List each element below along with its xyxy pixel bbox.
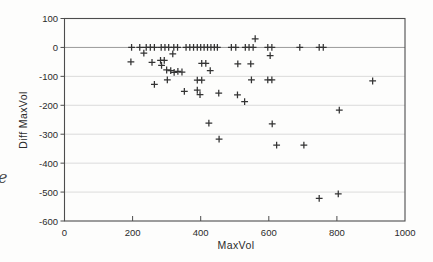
data-point-marker xyxy=(250,44,257,51)
data-point-marker xyxy=(247,61,254,68)
data-point-marker xyxy=(169,50,176,57)
data-point-marker xyxy=(269,120,276,127)
scatter-figure: 020040060080010001000-100-200-300-400-50… xyxy=(0,0,433,262)
data-point-marker xyxy=(151,81,158,88)
x-tick-label: 600 xyxy=(261,227,277,238)
data-point-marker xyxy=(335,190,342,197)
data-point-marker xyxy=(369,78,376,85)
y-tick-label: -500 xyxy=(39,187,58,198)
x-tick-label: 0 xyxy=(62,227,67,238)
data-point-marker xyxy=(268,44,275,51)
x-tick-label: 200 xyxy=(125,227,141,238)
data-point-marker xyxy=(232,44,239,51)
data-point-marker xyxy=(216,136,223,143)
x-tick-label: 800 xyxy=(329,227,345,238)
data-point-marker xyxy=(215,90,222,97)
stray-text-fragment: e xyxy=(0,168,7,187)
data-point-marker xyxy=(300,142,307,149)
data-point-marker xyxy=(316,195,323,202)
y-axis-title: Diff MaxVol xyxy=(17,91,29,148)
data-point-marker xyxy=(164,76,171,83)
data-point-marker xyxy=(205,120,212,127)
data-point-marker xyxy=(140,50,147,57)
y-tick-label: -200 xyxy=(39,100,58,111)
data-point-marker xyxy=(198,77,205,84)
axis-ticks xyxy=(61,19,337,222)
x-axis-title: MaxVol xyxy=(218,239,255,251)
data-point-marker xyxy=(268,76,275,83)
y-tick-label: 0 xyxy=(53,42,58,53)
data-point-marker xyxy=(207,67,214,74)
data-point-marker xyxy=(149,59,156,66)
data-point-marker xyxy=(136,44,143,51)
data-point-marker xyxy=(151,44,158,51)
data-point-marker xyxy=(174,44,181,51)
y-tick-label: -600 xyxy=(39,216,58,227)
data-point-marker xyxy=(128,44,135,51)
plot-area-border xyxy=(65,19,406,222)
scatter-plot: 020040060080010001000-100-200-300-400-50… xyxy=(0,0,433,262)
data-point-marker xyxy=(252,35,259,42)
data-point-marker xyxy=(181,88,188,95)
data-point-marker xyxy=(234,61,241,68)
data-point-marker xyxy=(336,107,343,114)
axis-tick-labels: 020040060080010001000-100-200-300-400-50… xyxy=(39,13,416,238)
gridlines xyxy=(65,47,406,192)
data-point-markers xyxy=(127,35,376,201)
data-point-marker xyxy=(171,69,178,76)
data-point-marker xyxy=(214,44,221,51)
data-point-marker xyxy=(267,52,274,59)
data-point-marker xyxy=(248,76,255,83)
data-point-marker xyxy=(296,44,303,51)
y-tick-label: -100 xyxy=(39,71,58,82)
y-tick-label: -300 xyxy=(39,129,58,140)
data-point-marker xyxy=(167,67,174,74)
x-tick-label: 400 xyxy=(193,227,209,238)
y-tick-label: 100 xyxy=(42,13,58,24)
data-point-marker xyxy=(320,44,327,51)
data-point-marker xyxy=(234,91,241,98)
data-point-marker xyxy=(273,142,280,149)
x-tick-label: 1000 xyxy=(394,227,415,238)
y-tick-label: -400 xyxy=(39,158,58,169)
data-point-marker xyxy=(202,60,209,67)
data-point-marker xyxy=(179,69,186,76)
data-point-marker xyxy=(127,58,134,65)
data-point-marker xyxy=(241,98,248,105)
